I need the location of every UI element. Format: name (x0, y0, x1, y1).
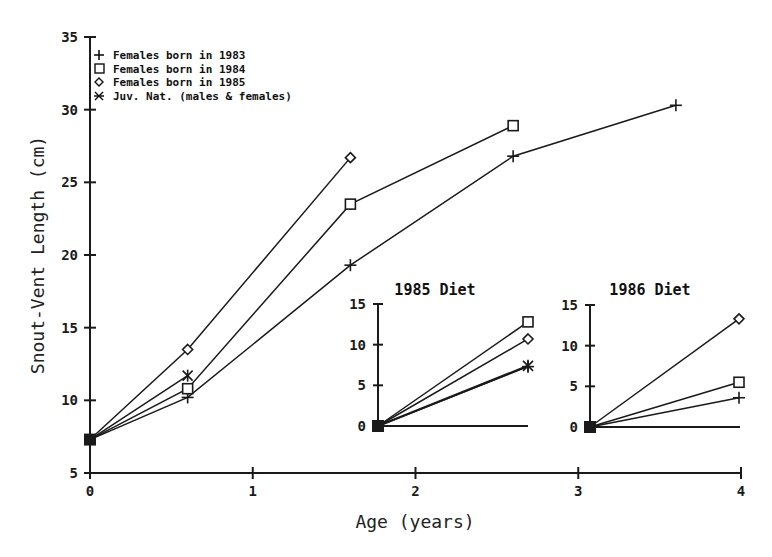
plus-marker-icon (670, 99, 682, 111)
legend-item-juv-nat: Juv. Nat. (males & females) (94, 90, 292, 103)
series-plus (90, 99, 682, 439)
plus-marker-icon (733, 392, 745, 404)
inset-title: 1985 Diet (394, 281, 475, 299)
legend-item-1985: Females born in 1985 (95, 76, 245, 89)
chart-svg: 5101520253035 01234 Age (years) Snout-Ve… (0, 0, 772, 557)
inset-series-asterisk (378, 360, 533, 426)
square-marker-icon (183, 384, 193, 394)
series-line (90, 158, 350, 440)
y-tick-label: 20 (61, 247, 78, 263)
inset-series-square (590, 377, 744, 427)
y-tick-label: 30 (61, 102, 78, 118)
origin-marker-icon (84, 434, 96, 446)
x-tick-label: 1 (249, 483, 257, 499)
diamond-marker-icon (95, 78, 103, 86)
square-marker-icon (508, 121, 518, 131)
y-tick-label: 25 (61, 174, 78, 190)
legend-item-1983: Females born in 1983 (94, 49, 245, 62)
asterisk-marker-icon (183, 370, 193, 382)
series-line (590, 382, 739, 427)
x-ticks: 01234 (86, 467, 745, 499)
x-axis-title: Age (years) (355, 511, 474, 532)
inset-series (584, 314, 745, 433)
legend-label: Females born in 1983 (113, 49, 245, 62)
x-tick-label: 3 (574, 483, 582, 499)
y-tick-label: 10 (61, 392, 78, 408)
inset-1986-diet: 1986 Diet 051015 (561, 281, 745, 435)
diamond-marker-icon (523, 334, 533, 344)
x-tick-label: 4 (737, 483, 745, 499)
inset-title: 1986 Diet (609, 281, 690, 299)
inset-y-tick-label: 10 (349, 337, 366, 353)
inset-series-diamond (378, 334, 533, 426)
inset-series (372, 317, 534, 432)
y-tick-label: 15 (61, 320, 78, 336)
series-line (90, 376, 188, 440)
square-marker-icon (523, 317, 533, 327)
square-marker-icon (734, 377, 744, 387)
legend-label: Females born in 1984 (113, 63, 246, 76)
series-line (90, 105, 676, 439)
inset-y-tick-label: 15 (561, 297, 578, 313)
inset-series-diamond (590, 314, 744, 427)
main-series (84, 99, 682, 445)
plus-marker-icon (507, 150, 519, 162)
y-axis-title: Snout-Vent Length (cm) (27, 136, 48, 374)
series-diamond (90, 153, 355, 440)
inset-y-tick-label: 15 (349, 296, 366, 312)
inset-y-tick-label: 0 (570, 419, 578, 435)
square-marker-icon (95, 64, 104, 73)
growth-chart: 5101520253035 01234 Age (years) Snout-Ve… (0, 0, 772, 557)
legend-label: Juv. Nat. (males & females) (113, 90, 292, 103)
origin-marker-icon (372, 420, 384, 432)
inset-series-square (378, 317, 533, 426)
asterisk-marker-icon (94, 92, 104, 100)
inset-y-tick-label: 5 (570, 378, 578, 394)
series-line (590, 398, 739, 427)
legend-label: Females born in 1985 (113, 76, 245, 89)
inset-1985-diet: 1985 Diet 051015 (349, 281, 534, 434)
x-tick-label: 0 (86, 483, 94, 499)
plus-marker-icon (94, 50, 104, 60)
x-tick-label: 2 (411, 483, 419, 499)
inset-y-tick-label: 10 (561, 338, 578, 354)
inset-y-tick-label: 0 (358, 418, 366, 434)
asterisk-marker-icon (523, 360, 533, 372)
diamond-marker-icon (734, 314, 744, 324)
y-tick-label: 5 (70, 465, 78, 481)
legend-item-1984: Females born in 1984 (95, 63, 246, 76)
square-marker-icon (345, 199, 355, 209)
inset-y-tick-label: 5 (358, 377, 366, 393)
series-line (590, 319, 739, 427)
series-asterisk (90, 370, 193, 440)
series-line (378, 339, 528, 426)
origin-marker-icon (584, 421, 596, 433)
y-tick-label: 35 (61, 29, 78, 45)
legend: Females born in 1983 Females born in 198… (94, 49, 292, 103)
